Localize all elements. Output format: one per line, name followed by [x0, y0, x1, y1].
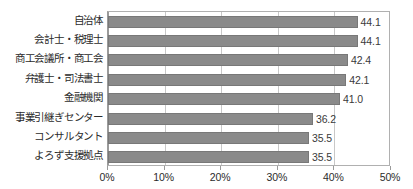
bar-row: 41.0 [108, 93, 389, 105]
category-label: 会計士・税理士 [34, 34, 103, 45]
plot-area: 44.144.142.442.141.036.235.535.5 [107, 11, 390, 166]
bar-value-label: 44.1 [361, 35, 381, 47]
x-tick-mark [390, 166, 391, 170]
bar-row: 44.1 [108, 35, 389, 47]
bar [108, 113, 313, 125]
bar-value-label: 42.4 [351, 54, 371, 66]
x-tick-label: 40% [323, 171, 344, 183]
bar-value-label: 35.5 [312, 132, 332, 144]
bar-value-label: 44.1 [361, 16, 381, 28]
x-tick-label: 20% [210, 171, 231, 183]
x-tick-label: 10% [153, 171, 174, 183]
bar-row: 35.5 [108, 132, 389, 144]
x-axis: 0%10%20%30%40%50% [107, 166, 390, 189]
bar-row: 36.2 [108, 113, 389, 125]
category-label: 弁護士・司法書士 [25, 73, 103, 84]
x-tick-mark [333, 166, 334, 170]
bar-value-label: 41.0 [343, 93, 363, 105]
x-tick-label: 30% [266, 171, 287, 183]
bar-row: 35.5 [108, 151, 389, 163]
bar [108, 35, 358, 47]
bar-row: 44.1 [108, 16, 389, 28]
x-tick-mark [107, 166, 108, 170]
bar [108, 74, 346, 86]
x-tick-label: 50% [380, 171, 401, 183]
bar [108, 54, 348, 66]
category-label: 商工会議所・商工会 [15, 53, 103, 64]
category-label: コンサルタント [34, 131, 103, 142]
category-label: 事業引継ぎセンター [15, 112, 103, 123]
x-tick-label: 0% [100, 171, 115, 183]
bar [108, 16, 358, 28]
category-label: よろず支援拠点 [34, 150, 103, 161]
bar-rows: 44.144.142.442.141.036.235.535.5 [108, 12, 389, 165]
x-tick-mark [220, 166, 221, 170]
category-label: 金融機関 [64, 92, 103, 103]
bar-row: 42.4 [108, 54, 389, 66]
bar [108, 132, 309, 144]
bar-row: 42.1 [108, 74, 389, 86]
category-axis-labels: 自治体会計士・税理士商工会議所・商工会弁護士・司法書士金融機関事業引継ぎセンター… [0, 11, 103, 166]
bar [108, 151, 309, 163]
bar-value-label: 35.5 [312, 151, 332, 163]
x-tick-mark [277, 166, 278, 170]
bar-value-label: 42.1 [349, 74, 369, 86]
bar-chart: 44.144.142.442.141.036.235.535.5 自治体会計士・… [0, 0, 413, 189]
category-label: 自治体 [74, 15, 103, 26]
x-tick-mark [164, 166, 165, 170]
bar [108, 93, 340, 105]
bar-value-label: 36.2 [316, 113, 336, 125]
